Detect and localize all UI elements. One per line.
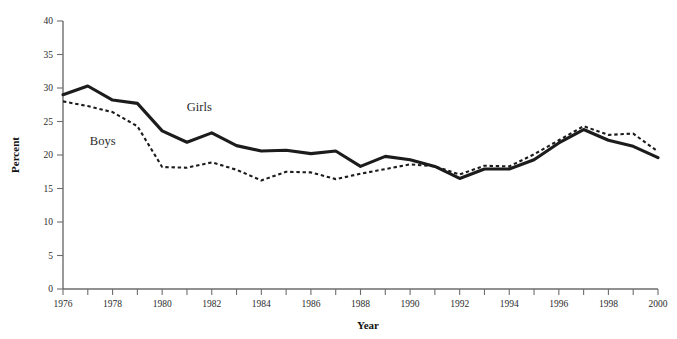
x-tick-label: 1976	[54, 299, 73, 309]
y-tick-label: 10	[44, 217, 54, 227]
line-chart: 0510152025303540 19761978198019821984198…	[0, 0, 677, 339]
x-tick-label: 1978	[103, 299, 122, 309]
x-tick-label: 1994	[500, 299, 519, 309]
y-axis-title: Percent	[9, 137, 21, 173]
x-tick-label: 1980	[153, 299, 172, 309]
chart-figure: 0510152025303540 19761978198019821984198…	[0, 0, 677, 339]
x-tick-label: 1996	[549, 299, 568, 309]
series-label-girls: Girls	[187, 100, 212, 114]
y-tick-label: 40	[44, 16, 54, 26]
y-tick-label: 15	[44, 184, 54, 194]
y-tick-label: 5	[48, 251, 53, 261]
series-line-boys	[63, 101, 658, 180]
x-tick-label: 1992	[450, 299, 469, 309]
y-tick-label: 20	[44, 150, 54, 160]
y-tick-label: 35	[44, 50, 54, 60]
x-axis-ticks: 1976197819801982198419861988199019921994…	[54, 289, 668, 309]
series-label-boys: Boys	[90, 134, 116, 148]
y-axis-ticks: 0510152025303540	[44, 16, 64, 294]
y-tick-label: 0	[48, 284, 53, 294]
x-tick-label: 1998	[599, 299, 618, 309]
y-tick-label: 25	[44, 117, 54, 127]
x-axis-title: Year	[357, 319, 379, 331]
x-tick-label: 1984	[252, 299, 271, 309]
x-tick-label: 1988	[351, 299, 370, 309]
y-tick-label: 30	[44, 83, 54, 93]
x-tick-label: 2000	[649, 299, 668, 309]
x-tick-label: 1982	[202, 299, 221, 309]
series-line-girls	[63, 86, 658, 178]
x-tick-label: 1990	[401, 299, 420, 309]
x-tick-label: 1986	[301, 299, 320, 309]
